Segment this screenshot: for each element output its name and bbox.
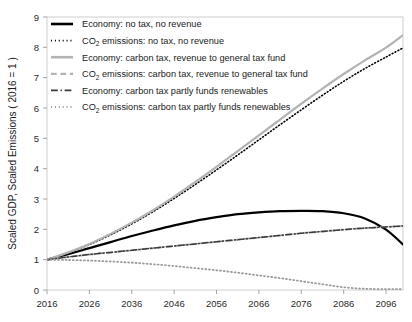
y-tick-label[interactable]: 6	[34, 103, 39, 114]
x-tick-label[interactable]: 2056	[206, 298, 227, 309]
legend-label-0[interactable]: Economy: no tax, no revenue	[82, 19, 202, 29]
y-tick-label[interactable]: 3	[34, 194, 39, 205]
legend-label-5[interactable]: CO2 emissions: carbon tax partly funds r…	[82, 102, 291, 113]
y-tick-label[interactable]: 1	[34, 254, 39, 265]
chart-figure: 0123456789201620262036204620562066207620…	[0, 0, 412, 322]
y-tick-label[interactable]: 8	[34, 42, 39, 53]
x-tick-label[interactable]: 2086	[333, 298, 354, 309]
legend-label-4[interactable]: Economy: carbon tax partly funds renewab…	[82, 86, 268, 96]
x-tick-label[interactable]: 2066	[248, 298, 269, 309]
legend-label-3[interactable]: CO2 emissions: carbon tax, revenue to ge…	[82, 69, 308, 80]
x-tick-label[interactable]: 2046	[164, 298, 185, 309]
x-tick-label[interactable]: 2096	[375, 298, 396, 309]
x-tick-label[interactable]: 2076	[291, 298, 312, 309]
y-tick-label[interactable]: 5	[34, 133, 39, 144]
y-tick-label[interactable]: 2	[34, 224, 39, 235]
y-tick-label[interactable]: 7	[34, 72, 39, 83]
line-chart: 0123456789201620262036204620562066207620…	[0, 0, 412, 322]
legend-label-2[interactable]: Economy: carbon tax, revenue to general …	[82, 53, 285, 63]
y-tick-label[interactable]: 4	[34, 163, 39, 174]
y-axis-title[interactable]: Scaled GDP, Scaled Emissions ( 2016 = 1 …	[7, 57, 18, 249]
y-tick-label[interactable]: 0	[34, 285, 39, 296]
x-tick-label[interactable]: 2016	[36, 298, 57, 309]
x-tick-label[interactable]: 2036	[121, 298, 142, 309]
y-tick-label[interactable]: 9	[34, 12, 39, 23]
legend-label-1[interactable]: CO2 emissions: no tax, no revenue	[82, 36, 224, 47]
x-tick-label[interactable]: 2026	[79, 298, 100, 309]
